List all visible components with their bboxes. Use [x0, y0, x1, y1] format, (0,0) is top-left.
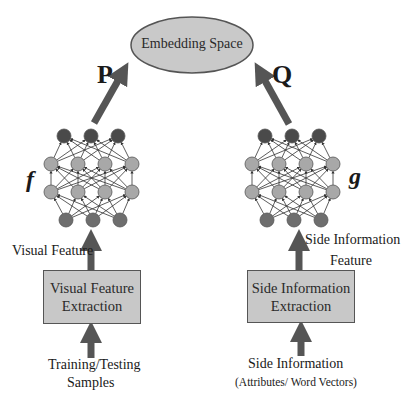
network-edge: [255, 143, 262, 157]
visual-feature-label: Visual Feature: [12, 243, 93, 259]
network-node: [71, 185, 85, 199]
network-node: [84, 129, 98, 143]
side-info-input-label-line1: Side Information: [248, 356, 343, 372]
network-node: [326, 157, 340, 171]
network-node: [272, 185, 286, 199]
box-line-2: Extraction: [62, 297, 122, 315]
network-node: [111, 129, 125, 143]
network-edge: [55, 199, 63, 214]
network-edge: [256, 199, 264, 214]
network-edge: [54, 143, 61, 157]
network-node: [326, 185, 340, 199]
network-node: [113, 213, 127, 227]
network-edge: [56, 170, 73, 187]
network-edge: [111, 170, 128, 187]
network-edge: [109, 199, 117, 214]
network-node: [260, 213, 274, 227]
network-node: [125, 185, 139, 199]
network-node: [299, 185, 313, 199]
network-node: [98, 157, 112, 171]
side-info-feature-label-line1: Side Information: [305, 232, 400, 248]
network-node: [299, 157, 313, 171]
training-samples-label-line2: Samples: [67, 375, 114, 391]
network-node: [98, 185, 112, 199]
network-label-f: f: [26, 166, 34, 193]
network-node: [285, 129, 299, 143]
visual-feature-extraction-box: Visual Feature Extraction: [43, 270, 141, 324]
training-samples-label-line1: Training/Testing: [48, 357, 141, 373]
side-info-feature-label-line2: Feature: [330, 253, 372, 269]
network-node: [245, 157, 259, 171]
network-node: [287, 213, 301, 227]
box-line-1: Side Information: [252, 279, 351, 297]
diagram-canvas: [0, 0, 411, 405]
network-node: [312, 129, 326, 143]
embedding-space-label: Embedding Space: [131, 36, 253, 52]
side-information-extraction-box: Side Information Extraction: [247, 270, 355, 323]
network-node: [314, 213, 328, 227]
projection-label-q: Q: [272, 60, 292, 90]
network-node: [125, 157, 139, 171]
network-node: [86, 213, 100, 227]
network-edge: [310, 199, 318, 214]
network-edge: [324, 199, 330, 213]
network-label-g: g: [349, 163, 361, 190]
network-node: [57, 129, 71, 143]
projection-label-p: P: [97, 60, 113, 90]
network-edge: [257, 170, 274, 187]
network-node: [71, 157, 85, 171]
network-edge: [123, 199, 129, 213]
box-line-2: Extraction: [271, 297, 331, 315]
network-node: [245, 185, 259, 199]
network-node: [272, 157, 286, 171]
neural-network-g: [245, 129, 340, 227]
network-edge: [122, 143, 129, 158]
neural-network-f: [44, 129, 139, 227]
network-edge: [323, 143, 330, 158]
network-node: [59, 213, 73, 227]
side-info-input-label-line2: (Attributes/ Word Vectors): [235, 376, 357, 388]
network-node: [44, 157, 58, 171]
network-edge: [312, 170, 329, 187]
box-line-1: Visual Feature: [50, 279, 134, 297]
network-node: [258, 129, 272, 143]
network-node: [44, 185, 58, 199]
